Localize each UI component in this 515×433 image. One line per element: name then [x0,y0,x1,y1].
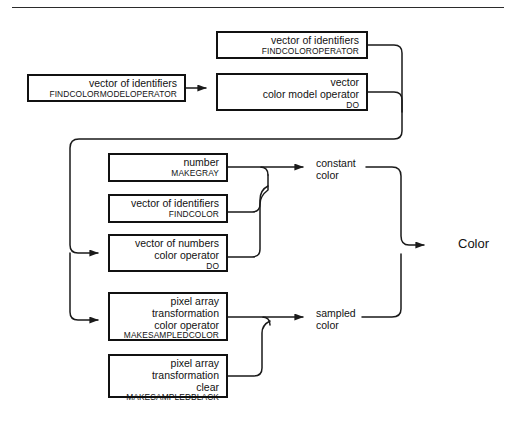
node-operator: FINDCOLOR [117,210,219,219]
figure-canvas: vector of identifiers FINDCOLOROPERATOR … [0,0,515,433]
node-operator: FINDCOLOROPERATOR [225,47,359,56]
node-line: transformation [117,370,219,382]
node-makesampledcolor[interactable]: pixel array transformation color operato… [108,292,228,341]
node-line: vector of identifiers [225,35,359,47]
wire-sampled-color-to-output [362,254,401,317]
connector-wires [0,0,515,433]
node-operator: FINDCOLORMODELOPERATOR [36,90,177,99]
node-line: transformation [117,308,219,320]
node-operator: DO [117,262,219,271]
node-findcoloroperator[interactable]: vector of identifiers FINDCOLOROPERATOR [216,31,368,59]
wire-findcolor-to-constant-color [228,175,268,212]
node-makesampledblack[interactable]: pixel array transformation clear MAKESAM… [108,354,228,398]
node-line: pixel array [117,358,219,370]
wire-makesampledcolor-to-sampled-color [228,317,270,325]
wire-left-bus-to-makesampledcolor [70,253,98,320]
label-line: color [316,170,356,182]
node-line: color model operator [225,89,359,101]
node-operator: MAKESAMPLEDCOLOR [117,331,219,340]
label-output-color: Color [458,236,489,251]
node-color-operator-do[interactable]: vector of numbers color operator DO [108,234,228,272]
label-constant-color: constant color [316,158,356,182]
wire-colormodeloperator-out [368,92,402,112]
node-makegray[interactable]: number MAKEGRAY [108,153,228,182]
node-line: vector of identifiers [36,78,177,90]
node-operator: DO [225,101,359,110]
node-line: pixel array [117,296,219,308]
node-operator: MAKEGRAY [117,169,219,178]
node-color-model-operator-do[interactable]: vector color model operator DO [216,73,368,111]
node-line: vector [225,77,359,89]
node-line: vector of numbers [117,238,219,250]
wire-constant-color-to-output [366,167,424,245]
node-line: number [117,157,219,169]
node-line: vector of identifiers [117,198,219,210]
node-operator: MAKESAMPLEDBLACK [117,393,219,402]
node-findcolor[interactable]: vector of identifiers FINDCOLOR [108,194,228,223]
wire-makesampledblack-to-sampled-color [228,321,270,376]
node-findcolormodeloperator[interactable]: vector of identifiers FINDCOLORMODELOPER… [27,74,186,102]
label-line: color [316,320,356,332]
label-sampled-color: sampled color [316,308,356,332]
node-line: color operator [117,250,219,262]
wire-makegray-to-constant-color [228,167,268,175]
